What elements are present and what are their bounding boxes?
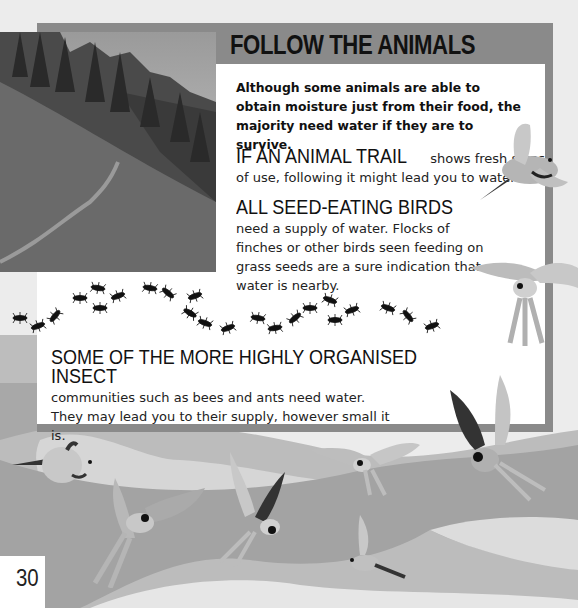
section-heading: IF AN ANIMAL TRAIL: [236, 147, 407, 166]
page-number-box: 30: [0, 556, 45, 608]
section-insect-communities: SOME OF THE MORE HIGHLY ORGANISED INSECT…: [51, 348, 471, 445]
section-heading: ALL SEED-EATING BIRDS: [236, 198, 453, 217]
macaw-illustration: [440, 375, 550, 505]
macaw-illustration: [210, 452, 300, 567]
section-body: communities such as bees and ants need w…: [51, 388, 391, 445]
macaw-illustration: [85, 478, 205, 588]
macaw-illustration: [12, 430, 92, 500]
macaw-illustration: [330, 515, 410, 580]
mountain-trail-photo: [0, 32, 216, 272]
section-heading: SOME OF THE MORE HIGHLY ORGANISED INSECT: [51, 348, 429, 386]
macaw-illustration: [310, 440, 420, 500]
page-title: FOLLOW THE ANIMALS: [230, 24, 475, 64]
ant-trail-illustration: [10, 278, 500, 338]
page-number: 30: [16, 564, 39, 592]
macaw-illustration: [470, 258, 578, 348]
macaw-illustration: [470, 120, 570, 210]
